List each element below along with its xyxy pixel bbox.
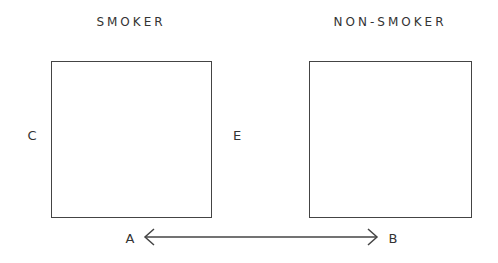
double-arrow-icon bbox=[0, 0, 498, 263]
